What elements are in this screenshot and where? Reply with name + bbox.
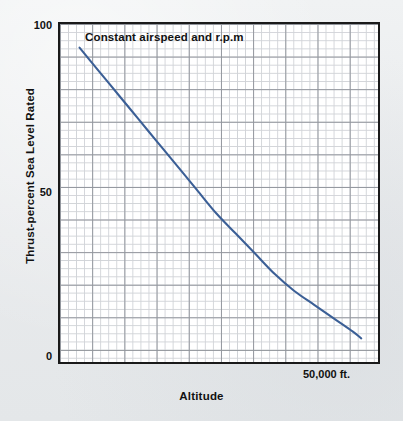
chart-annotation-note: Constant airspeed and r.p.m (85, 31, 244, 43)
y-tick-label-50: 50 (40, 186, 52, 198)
y-tick-label-0: 0 (46, 350, 52, 362)
chart-page: Thrust-percent Sea Level Rated 100 50 0 … (0, 0, 403, 421)
x-tick-label-max: 50,000 ft. (303, 368, 350, 380)
plot-area (58, 22, 380, 364)
thrust-curve-line (80, 48, 362, 339)
y-tick-label-100: 100 (34, 19, 52, 31)
y-axis-title: Thrust-percent Sea Level Rated (24, 81, 36, 271)
x-axis-title: Altitude (0, 390, 403, 402)
thrust-curve-svg (60, 24, 378, 362)
